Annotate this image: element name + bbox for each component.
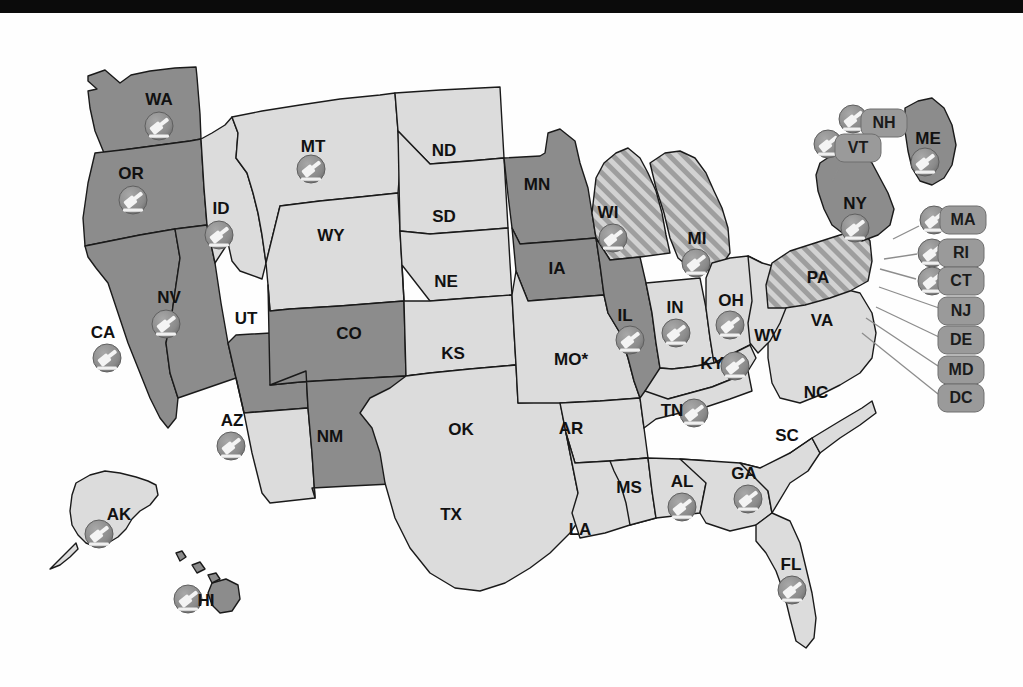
state-label-mt: MT [301,137,326,156]
state-label-ky: KY [700,354,724,373]
landmass-hi-small2 [192,562,205,573]
gavel-icon-wi[interactable] [599,224,627,252]
state-label-ga: GA [731,464,757,483]
pill-label-nh: NH [872,114,895,131]
state-wa[interactable] [88,67,201,153]
state-label-ms: MS [616,478,642,497]
state-label-id: ID [213,199,230,218]
callout-pill-ma[interactable]: MA [940,206,986,234]
pill-label-de: DE [950,331,973,348]
state-label-sd: SD [432,207,456,226]
leader-line-ma [893,226,919,239]
pill-label-ma: MA [951,211,976,228]
landmass-hi-small1 [176,551,186,561]
leader-line-ct [880,269,916,279]
pill-label-ri: RI [953,244,969,261]
state-label-mi: MI [688,229,707,248]
callout-pill-dc[interactable]: DC [938,384,984,412]
state-label-or: OR [118,164,144,183]
gavel-icon-mi[interactable] [682,249,710,277]
state-label-co: CO [336,324,362,343]
callout-pill-de[interactable]: DE [938,326,984,354]
state-label-sc: SC [775,426,799,445]
state-label-ne: NE [434,272,458,291]
callout-pill-vt[interactable]: VT [835,134,881,162]
gavel-icon-me[interactable] [911,148,939,176]
state-label-ks: KS [441,344,465,363]
callout-pill-ct[interactable]: CT [938,267,984,295]
leader-line-de [876,307,939,337]
state-label-ut: UT [235,309,258,328]
gavel-icon-ca[interactable] [93,344,121,372]
gavel-icon-al[interactable] [668,493,696,521]
gavel-icon-fl[interactable] [778,576,806,604]
state-label-ca: CA [91,323,116,342]
callout-pill-ri[interactable]: RI [938,239,984,267]
state-label-ar: AR [559,419,584,438]
us-map-svg: WAORCANVIDMTWYUTAZCONMNDSDNEKSOKTXMNIAMO… [0,13,1023,687]
state-label-ok: OK [448,420,474,439]
state-label-fl: FL [781,555,802,574]
gavel-icon-or[interactable] [119,186,147,214]
leader-line-md [866,318,938,366]
gavel-icon-oh[interactable] [716,311,744,339]
landmass-ak-tail [50,543,78,569]
gavel-icon-ga[interactable] [734,485,762,513]
gavel-icon-il[interactable] [616,326,644,354]
gavel-icon-ny[interactable] [841,214,869,242]
state-label-tn: TN [661,401,684,420]
pill-label-vt: VT [848,139,869,156]
state-label-nm: NM [317,427,343,446]
gavel-icon-nv[interactable] [152,310,180,338]
state-label-al: AL [671,472,694,491]
pill-label-ct: CT [950,272,972,289]
state-label-oh: OH [718,291,744,310]
pill-label-dc: DC [949,389,973,406]
pill-label-md: MD [949,361,974,378]
pill-label-nj: NJ [951,302,971,319]
state-label-wa: WA [145,90,172,109]
state-label-va: VA [811,311,833,330]
state-label-az: AZ [221,411,244,430]
gavel-icon-wa[interactable] [145,112,173,140]
map-figure: WAORCANVIDMTWYUTAZCONMNDSDNEKSOKTXMNIAMO… [0,0,1023,687]
state-label-in: IN [667,298,684,317]
state-label-la: LA [569,520,592,539]
state-label-ny: NY [843,194,867,213]
callout-pill-nj[interactable]: NJ [938,297,984,325]
state-label-tx: TX [440,505,462,524]
gavel-icon-az[interactable] [217,432,245,460]
state-label-wi: WI [598,203,619,222]
gavel-icon-ky[interactable] [721,352,749,380]
state-label-nv: NV [157,288,181,307]
state-label-mo: MO* [554,350,588,369]
callout-pill-md[interactable]: MD [938,356,984,384]
state-ks[interactable] [404,295,516,376]
state-label-hi: HI [198,591,215,610]
state-label-pa: PA [807,268,829,287]
state-label-wv: WV [754,326,782,345]
gavel-icon-mt[interactable] [297,155,325,183]
us-map-canvas: WAORCANVIDMTWYUTAZCONMNDSDNEKSOKTXMNIAMO… [0,13,1023,687]
state-label-nd: ND [432,141,457,160]
leader-line-ri [884,254,917,259]
state-label-mn: MN [524,175,550,194]
state-label-ia: IA [549,259,566,278]
state-label-ak: AK [107,505,132,524]
callout-pill-nh[interactable]: NH [861,109,907,137]
leader-line-dc [862,333,938,394]
gavel-icon-id[interactable] [205,221,233,249]
state-wy[interactable] [266,193,404,311]
state-label-il: IL [617,306,632,325]
state-label-wy: WY [317,226,345,245]
state-label-nc: NC [804,383,829,402]
gavel-icon-in[interactable] [662,319,690,347]
gavel-icon-tn[interactable] [680,399,708,427]
state-label-me: ME [915,129,941,148]
top-black-banner [0,0,1023,13]
